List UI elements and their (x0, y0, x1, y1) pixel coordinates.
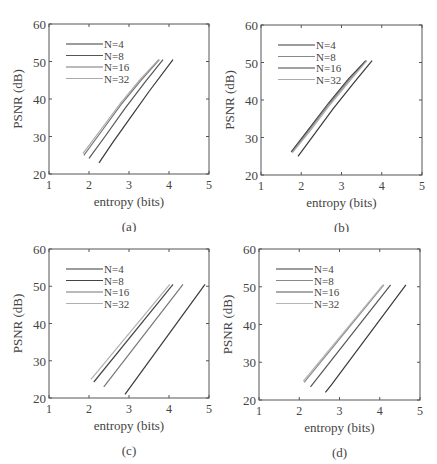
x-tick-label: 5 (206, 402, 212, 416)
x-tick-label: 4 (379, 179, 385, 193)
legend-label: N=8 (104, 275, 124, 287)
chart-panel-c: 123452030405060entropy (bits)PSNR (dB)N=… (0, 232, 218, 464)
plot-area (49, 249, 209, 398)
panel-caption: (c) (122, 443, 136, 458)
y-tick-label: 20 (243, 393, 256, 408)
x-tick-label: 3 (126, 402, 132, 416)
legend-label: N=4 (104, 38, 124, 50)
y-tick-label: 40 (245, 93, 258, 108)
chart-panel-b: 123452030405060entropy (bits)PSNR (dB)N=… (218, 0, 437, 232)
y-tick-label: 30 (33, 130, 46, 145)
y-axis-label: PSNR (dB) (222, 70, 237, 130)
y-tick-label: 20 (245, 168, 258, 183)
y-axis-label: PSNR (dB) (10, 294, 25, 354)
x-tick-label: 4 (166, 178, 172, 192)
data-series-line (125, 284, 205, 394)
legend-label: N=4 (314, 263, 334, 275)
x-axis-label: entropy (bits) (94, 418, 164, 433)
y-axis-label: PSNR (dB) (220, 295, 235, 355)
panel-caption: (d) (332, 445, 347, 460)
x-axis-label: entropy (bits) (304, 420, 374, 435)
x-axis-label: entropy (bits) (306, 195, 376, 210)
y-tick-label: 20 (33, 167, 46, 182)
legend-label: N=4 (104, 263, 124, 275)
x-tick-label: 1 (256, 404, 262, 418)
plot-area (261, 25, 422, 175)
y-tick-label: 30 (245, 131, 258, 146)
line-chart: 123452030405060entropy (bits)PSNR (dB)N=… (0, 0, 218, 232)
y-tick-label: 50 (33, 279, 46, 294)
legend-label: N=8 (104, 50, 124, 62)
x-tick-label: 2 (86, 402, 92, 416)
y-tick-label: 50 (33, 55, 46, 70)
x-tick-label: 4 (166, 402, 172, 416)
y-tick-label: 60 (243, 242, 256, 257)
y-tick-label: 30 (243, 355, 256, 370)
x-tick-label: 1 (46, 178, 52, 192)
x-axis-label: entropy (bits) (94, 194, 164, 209)
legend-label: N=16 (104, 61, 130, 73)
legend-label: N=32 (104, 73, 129, 85)
y-tick-label: 60 (33, 242, 46, 257)
chart-panel-a: 123452030405060entropy (bits)PSNR (dB)N=… (0, 0, 218, 232)
legend-label: N=32 (104, 298, 129, 310)
legend-label: N=16 (104, 286, 130, 298)
panel-caption: (a) (122, 219, 136, 232)
x-tick-label: 5 (419, 179, 425, 193)
y-tick-label: 30 (33, 354, 46, 369)
y-tick-label: 20 (33, 391, 46, 406)
x-tick-label: 3 (339, 179, 345, 193)
x-tick-label: 1 (46, 402, 52, 416)
x-tick-label: 5 (417, 404, 423, 418)
y-tick-label: 40 (33, 92, 46, 107)
x-tick-label: 3 (337, 404, 343, 418)
line-chart: 123452030405060entropy (bits)PSNR (dB)N=… (0, 232, 218, 464)
y-tick-label: 50 (243, 280, 256, 295)
plot-area (49, 24, 209, 174)
legend-label: N=16 (314, 286, 340, 298)
chart-panel-d: 123452030405060entropy (bits)PSNR (dB)N=… (218, 232, 437, 464)
x-tick-label: 2 (296, 404, 302, 418)
legend-label: N=16 (316, 62, 342, 74)
x-tick-label: 3 (126, 178, 132, 192)
panel-caption: (b) (334, 220, 349, 232)
x-tick-label: 4 (377, 404, 383, 418)
line-chart: 123452030405060entropy (bits)PSNR (dB)N=… (218, 232, 437, 464)
line-chart: 123452030405060entropy (bits)PSNR (dB)N=… (218, 0, 437, 232)
legend-label: N=4 (316, 39, 336, 51)
legend-label: N=32 (314, 298, 339, 310)
legend-label: N=8 (314, 275, 334, 287)
x-tick-label: 2 (298, 179, 304, 193)
data-series-line (91, 284, 170, 379)
y-tick-label: 50 (245, 56, 258, 71)
x-tick-label: 2 (86, 178, 92, 192)
legend-label: N=32 (316, 74, 341, 86)
y-axis-label: PSNR (dB) (10, 69, 25, 129)
plot-area (259, 249, 420, 400)
y-tick-label: 40 (33, 317, 46, 332)
y-tick-label: 60 (33, 17, 46, 32)
x-tick-label: 5 (206, 178, 212, 192)
x-tick-label: 1 (258, 179, 264, 193)
legend-label: N=8 (316, 51, 336, 63)
y-tick-label: 60 (245, 18, 258, 33)
y-tick-label: 40 (243, 318, 256, 333)
